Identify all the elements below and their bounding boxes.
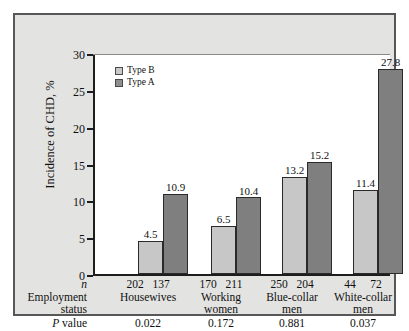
row-label-value-text: value — [62, 317, 87, 329]
legend-label-type-b: Type B — [127, 65, 155, 76]
bar-label-white-collar-men-type-b: 11.4 — [356, 177, 375, 189]
bar-label-working-women-type-b: 6.5 — [217, 213, 231, 225]
row-label-employment-status-line2: status — [0, 303, 87, 315]
legend: Type B Type A — [115, 65, 155, 89]
y-tick-5: 5 — [45, 232, 85, 247]
group-name-white-collar-men-line1: White-collar — [334, 291, 392, 303]
bar-working-women-type-a — [236, 197, 261, 274]
p-value-white-collar-men: 0.037 — [350, 317, 376, 329]
p-value-working-women: 0.172 — [208, 317, 234, 329]
p-value-blue-collar-men: 0.881 — [279, 317, 305, 329]
n-white-collar-men-type-a: 72 — [363, 278, 389, 290]
group-name-blue-collar-men-line1: Blue-collar — [266, 291, 318, 303]
bar-label-housewives-type-a: 10.9 — [166, 181, 185, 193]
n-values-blue-collar-men: 250204 — [266, 278, 318, 290]
figure-container: 30 25 20 15 10 5 0 Incidence of CHD, % T… — [0, 0, 409, 331]
bar-label-blue-collar-men-type-a: 15.2 — [310, 149, 329, 161]
bar-blue-collar-men-type-a — [307, 162, 332, 274]
group-name-working-women-line1: Working — [201, 291, 241, 303]
bar-label-white-collar-men-type-a: 27.8 — [381, 56, 400, 68]
n-blue-collar-men-type-a: 204 — [292, 278, 318, 290]
n-working-women-type-a: 211 — [221, 278, 247, 290]
group-name-blue-collar-men-line2: men — [282, 303, 302, 315]
p-value-housewives: 0.022 — [135, 317, 161, 329]
plot-area: Type B Type A 4.5 10.9 6.5 10.4 13.2 15.… — [93, 55, 390, 276]
n-blue-collar-men-type-b: 250 — [266, 278, 292, 290]
bar-label-working-women-type-a: 10.4 — [239, 185, 258, 197]
n-values-white-collar-men: 4472 — [337, 278, 389, 290]
legend-label-type-a: Type A — [127, 77, 155, 88]
n-values-housewives: 202137 — [122, 278, 174, 290]
n-white-collar-men-type-b: 44 — [337, 278, 363, 290]
row-label-employment-status-line1: Employment — [0, 291, 87, 303]
bar-label-housewives-type-b: 4.5 — [144, 228, 158, 240]
bar-working-women-type-b — [211, 226, 236, 274]
bar-label-blue-collar-men-type-b: 13.2 — [285, 164, 304, 176]
legend-item-type-b: Type B — [115, 65, 155, 76]
bar-housewives-type-b — [138, 241, 163, 274]
dark-gray-swatch-icon — [115, 79, 123, 87]
group-name-white-collar-men-line2: men — [353, 303, 373, 315]
bottom-data-table: n 202137 170211 250204 4472 Employment s… — [15, 278, 398, 318]
group-name-working-women-line2: women — [204, 303, 238, 315]
light-gray-swatch-icon — [115, 67, 123, 75]
n-working-women-type-b: 170 — [195, 278, 221, 290]
row-label-p-italic: P — [52, 317, 59, 329]
row-label-p-value: P value — [0, 317, 87, 329]
legend-item-type-a: Type A — [115, 77, 155, 88]
n-values-working-women: 170211 — [195, 278, 247, 290]
row-label-n: n — [0, 278, 87, 290]
group-name-housewives-line1: Housewives — [120, 291, 176, 303]
n-housewives-type-a: 137 — [148, 278, 174, 290]
y-axis-title: Incidence of CHD, % — [43, 40, 58, 230]
bar-blue-collar-men-type-b — [282, 177, 307, 274]
bar-housewives-type-a — [163, 194, 188, 274]
n-housewives-type-b: 202 — [122, 278, 148, 290]
bar-white-collar-men-type-b — [353, 190, 378, 274]
bar-white-collar-men-type-a — [378, 69, 403, 274]
figure-frame: 30 25 20 15 10 5 0 Incidence of CHD, % T… — [13, 13, 396, 316]
